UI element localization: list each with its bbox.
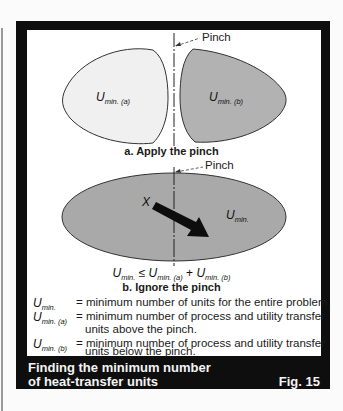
region-a-label: Umin. (a) <box>96 91 130 106</box>
pinch-leader-arrowhead-b <box>175 169 181 173</box>
legend-symbol-1: Umin. (a) <box>33 311 67 326</box>
figure-caption-line1: Finding the minimum number <box>28 361 211 374</box>
figure-caption-line2: of heat-transfer units <box>28 375 158 388</box>
pinch-label-a: Pinch <box>202 32 231 44</box>
legend-def-1-cont: units above the pinch. <box>85 324 197 336</box>
arrow-x-label: X <box>142 196 150 208</box>
pinch-leader-arrowhead-a <box>175 42 181 46</box>
legend-symbol-2: Umin. (b) <box>33 338 67 353</box>
region-b-label: Umin. (b) <box>209 91 243 106</box>
figure-number: Fig. 15 <box>270 375 320 388</box>
region-total-label: Umin. <box>226 209 249 224</box>
pinch-label-b: Pinch <box>205 160 234 172</box>
legend-def-0: = minimum number of units for the entire… <box>76 297 331 309</box>
subcaption-b: b. Ignore the pinch <box>0 282 343 293</box>
legend-def-2-cont: units below the pinch. <box>85 346 196 358</box>
equation: Umin. ≤ Umin. (a) + Umin. (b) <box>0 267 343 282</box>
subcaption-a: a. Apply the pinch <box>0 146 343 157</box>
legend-def-1: = minimum number of process and utility … <box>76 311 325 323</box>
